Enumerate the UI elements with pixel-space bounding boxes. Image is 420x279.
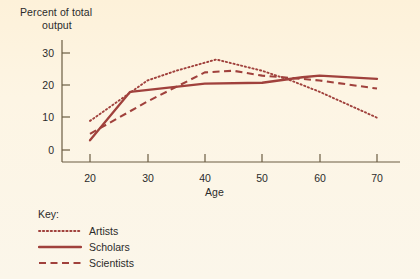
legend-item-artists: Artists xyxy=(38,223,134,239)
axes xyxy=(62,40,400,162)
chart-figure: Percent of total output Age 30 20 10 0 2… xyxy=(0,0,420,279)
legend-swatch-artists xyxy=(38,225,82,237)
series-line-scientists xyxy=(90,71,377,134)
series-line-scholars xyxy=(90,76,377,141)
legend-item-scholars: Scholars xyxy=(38,239,134,255)
series-line-artists xyxy=(90,59,377,120)
legend: Key: Artists Scholars Scientists xyxy=(38,208,134,271)
legend-item-scientists: Scientists xyxy=(38,255,134,271)
data-series-group xyxy=(90,59,377,140)
legend-swatch-scholars xyxy=(38,241,82,253)
legend-label-artists: Artists xyxy=(89,225,118,237)
legend-swatch-scientists xyxy=(38,257,82,269)
legend-label-scholars: Scholars xyxy=(89,241,130,253)
legend-label-scientists: Scientists xyxy=(89,257,134,269)
legend-title: Key: xyxy=(38,208,134,220)
